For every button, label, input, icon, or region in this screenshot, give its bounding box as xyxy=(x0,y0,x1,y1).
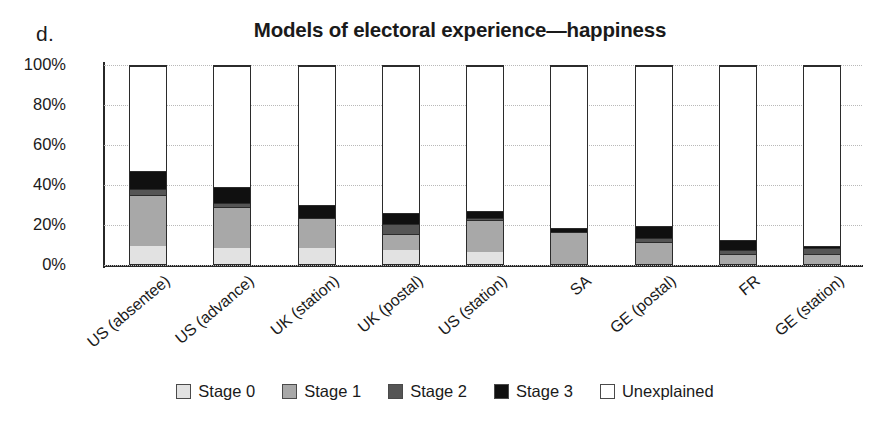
x-axis-label: SA xyxy=(567,272,595,299)
bar-segment-stage-1 xyxy=(636,242,672,264)
bar-segment-stage-1 xyxy=(299,218,335,248)
chart-figure: d. Models of electoral experience—happin… xyxy=(0,0,890,433)
y-axis-tick-label: 40% xyxy=(0,175,66,194)
bar-segment-stage-0 xyxy=(214,248,250,264)
bar-segment-stage-3 xyxy=(383,213,419,225)
y-axis-tick-label: 20% xyxy=(0,215,66,234)
x-axis-label: UK (postal) xyxy=(354,272,426,337)
x-axis-label: US (advance) xyxy=(172,272,258,348)
bar-segment-stage-3 xyxy=(636,226,672,238)
bar-segment-stage-0 xyxy=(383,250,419,264)
legend-swatch-icon xyxy=(282,384,297,399)
bar-segment-unexplained xyxy=(467,66,503,211)
bar-segment-unexplained xyxy=(720,66,756,240)
legend-swatch-icon xyxy=(388,384,403,399)
panel-letter: d. xyxy=(36,22,54,46)
bar-segment-unexplained xyxy=(383,66,419,213)
bar-segment-stage-3 xyxy=(130,171,166,189)
chart-title: Models of electoral experience—happiness xyxy=(150,18,770,42)
y-axis-tick-label: 60% xyxy=(0,135,66,154)
bar-segment-stage-1 xyxy=(130,195,166,246)
stacked-bar[interactable] xyxy=(298,65,336,265)
x-axis-label: UK (station) xyxy=(267,272,342,339)
stacked-bar[interactable] xyxy=(719,65,757,265)
bar-segment-unexplained xyxy=(299,66,335,205)
bar-segment-stage-0 xyxy=(299,248,335,264)
gridline xyxy=(104,265,862,266)
y-axis-tick-label: 0% xyxy=(0,255,66,274)
legend-item-stage-3[interactable]: Stage 3 xyxy=(494,382,573,401)
bar-segment-stage-1 xyxy=(720,254,756,264)
x-axis-label: US (absentee) xyxy=(84,272,174,351)
bar-segment-unexplained xyxy=(214,66,250,187)
stacked-bar[interactable] xyxy=(466,65,504,265)
bar-segment-unexplained xyxy=(636,66,672,226)
legend-swatch-icon xyxy=(176,384,191,399)
bar-segment-stage-1 xyxy=(551,232,587,264)
bar-segment-stage-1 xyxy=(804,254,840,264)
bar-segment-unexplained xyxy=(551,66,587,228)
bar-segment-stage-3 xyxy=(299,205,335,219)
bar-segment-stage-1 xyxy=(214,207,250,249)
legend-item-stage-1[interactable]: Stage 1 xyxy=(282,382,361,401)
legend-item-stage-2[interactable]: Stage 2 xyxy=(388,382,467,401)
stacked-bar[interactable] xyxy=(213,65,251,265)
plot-area: 0%20%40%60%80%100% xyxy=(104,65,862,265)
legend-label: Stage 0 xyxy=(198,382,255,401)
legend-item-stage-0[interactable]: Stage 0 xyxy=(176,382,255,401)
x-axis-label: GE (station) xyxy=(772,272,848,340)
legend-label: Stage 1 xyxy=(304,382,361,401)
legend-label: Stage 3 xyxy=(516,382,573,401)
legend-item-unexplained[interactable]: Unexplained xyxy=(600,382,714,401)
stacked-bar[interactable] xyxy=(129,65,167,265)
bar-segment-stage-0 xyxy=(467,252,503,264)
x-axis-label: GE (postal) xyxy=(606,272,679,337)
bar-segment-stage-2 xyxy=(383,224,419,234)
bar-segment-stage-3 xyxy=(467,211,503,219)
x-axis-label: US (station) xyxy=(435,272,510,339)
bar-segment-stage-3 xyxy=(214,187,250,203)
legend-swatch-icon xyxy=(494,384,509,399)
stacked-bar[interactable] xyxy=(635,65,673,265)
stacked-bar[interactable] xyxy=(550,65,588,265)
bar-segment-stage-1 xyxy=(383,234,419,250)
bar-segment-unexplained xyxy=(130,66,166,171)
stacked-bar[interactable] xyxy=(803,65,841,265)
legend-label: Stage 2 xyxy=(410,382,467,401)
bar-segment-unexplained xyxy=(804,66,840,246)
bar-segment-stage-0 xyxy=(130,246,166,264)
legend-swatch-icon xyxy=(600,384,615,399)
bar-segment-stage-3 xyxy=(720,240,756,250)
stacked-bar[interactable] xyxy=(382,65,420,265)
y-axis-tick-label: 100% xyxy=(0,55,66,74)
legend-label: Unexplained xyxy=(622,382,714,401)
y-axis-tick-label: 80% xyxy=(0,95,66,114)
x-axis-label: FR xyxy=(736,272,764,299)
bar-segment-stage-1 xyxy=(467,220,503,252)
chart-legend: Stage 0Stage 1Stage 2Stage 3Unexplained xyxy=(0,382,890,401)
